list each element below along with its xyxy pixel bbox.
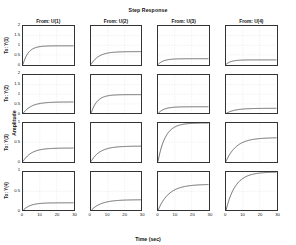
subplot-r3-c3 [157, 122, 210, 163]
subplot-r2-c1 [22, 74, 75, 115]
y-tick-label: 1 [10, 92, 20, 96]
x-tick-label: 0 [152, 213, 162, 217]
x-tick-label: 20 [120, 213, 130, 217]
x-tick-label: 10 [238, 213, 248, 217]
subplot-r3-c1 [22, 122, 75, 163]
x-tick-label: 0 [85, 213, 95, 217]
subplot-r1-c1 [22, 25, 75, 66]
y-tick-label: 0 [10, 160, 20, 164]
subplot-r3-c4 [225, 122, 278, 163]
row-label-3: To: Y(3) [4, 129, 9, 155]
subplot-r1-c4 [225, 25, 278, 66]
x-tick-label: 0 [220, 213, 230, 217]
x-tick-label: 10 [102, 213, 112, 217]
column-header-2: From: U(2) [90, 19, 143, 24]
x-tick-label: 30 [70, 213, 80, 217]
x-tick-label: 20 [187, 213, 197, 217]
x-tick-label: 30 [205, 213, 215, 217]
row-label-2: To: Y(2) [4, 81, 9, 107]
subplot-r2-c3 [157, 74, 210, 115]
y-tick-label: 1.5 [10, 33, 20, 37]
x-tick-label: 10 [170, 213, 180, 217]
x-tick-label: 30 [273, 213, 283, 217]
y-tick-label: 2 [10, 23, 20, 27]
y-tick-label: 0.5 [10, 53, 20, 57]
y-tick-label: 1 [10, 168, 20, 172]
subplot-r1-c3 [157, 25, 210, 66]
step-response-figure: Step Response Amplitude Time (sec) From:… [0, 0, 296, 245]
x-tick-label: 30 [137, 213, 147, 217]
column-header-1: From: U(1) [22, 19, 75, 24]
column-header-4: From: U(4) [225, 19, 278, 24]
subplot-r2-c4 [225, 74, 278, 115]
y-tick-label: 1 [10, 43, 20, 47]
x-tick-label: 20 [52, 213, 62, 217]
subplot-r4-c1 [22, 171, 75, 212]
row-label-4: To: Y(4) [4, 178, 9, 204]
subplot-r4-c4 [225, 171, 278, 212]
subplot-r1-c2 [90, 25, 143, 66]
y-tick-label: 1 [10, 120, 20, 124]
subplot-r3-c2 [90, 122, 143, 163]
subplot-grid: From: U(1)To: Y(1)00.511.52From: U(2)Fro… [0, 0, 296, 245]
subplot-r4-c2 [90, 171, 143, 212]
y-tick-label: 0 [10, 112, 20, 116]
y-tick-label: 0.5 [10, 189, 20, 193]
row-label-1: To: Y(1) [4, 32, 9, 58]
y-tick-label: 2 [10, 71, 20, 75]
x-tick-label: 10 [35, 213, 45, 217]
x-tick-label: 0 [17, 213, 27, 217]
y-tick-label: 0 [10, 63, 20, 67]
subplot-r2-c2 [90, 74, 143, 115]
y-tick-label: 0.5 [10, 102, 20, 106]
subplot-r4-c3 [157, 171, 210, 212]
y-tick-label: 1.5 [10, 82, 20, 86]
x-tick-label: 20 [255, 213, 265, 217]
y-tick-label: 0.5 [10, 140, 20, 144]
column-header-3: From: U(3) [157, 19, 210, 24]
